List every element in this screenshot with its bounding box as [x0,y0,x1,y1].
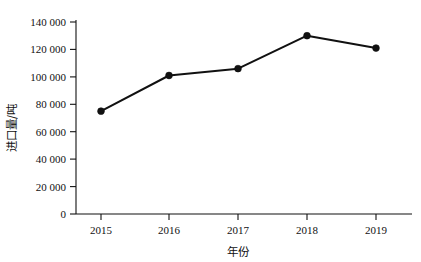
x-tick-label-2015: 2015 [90,224,113,236]
y-tick-label-40000: 40 000 [36,153,67,165]
line-chart: 0 20 000 40 000 60 000 80 000 100 000 12… [0,0,421,262]
x-tick-label-2018: 2018 [296,224,319,236]
y-tick-label-0: 0 [61,208,67,220]
x-axis-title: 年份 [227,245,250,259]
data-point-2016 [166,72,173,79]
y-tick-label-120000: 120 000 [30,43,66,55]
data-point-2019 [373,45,380,52]
series-line-import-volume [101,36,376,111]
x-tick-label-2017: 2017 [227,224,250,236]
y-tick-label-60000: 60 000 [36,126,67,138]
y-tick-label-140000: 140 000 [30,16,66,28]
data-point-2018 [304,32,311,39]
y-axis-title: 进口量/吨 [5,103,19,152]
x-tick-label-2016: 2016 [158,224,181,236]
chart-canvas: 0 20 000 40 000 60 000 80 000 100 000 12… [0,0,421,262]
data-point-2015 [98,108,105,115]
x-tick-label-2019: 2019 [365,224,388,236]
y-tick-label-80000: 80 000 [36,98,67,110]
y-tick-label-20000: 20 000 [36,181,67,193]
y-tick-label-100000: 100 000 [30,71,66,83]
data-point-2017 [235,65,242,72]
series-markers [98,32,380,114]
